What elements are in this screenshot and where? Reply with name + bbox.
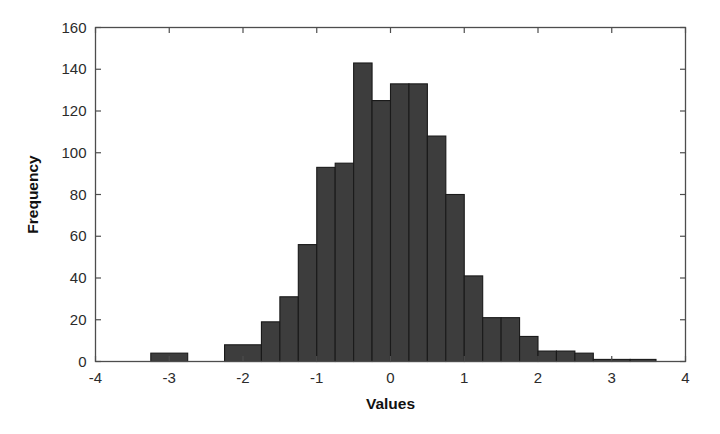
histogram-bar (520, 336, 538, 361)
x-tick-label: -4 (89, 369, 102, 386)
histogram-bar (280, 297, 298, 362)
x-tick-label: 2 (534, 369, 542, 386)
histogram-bar (335, 163, 353, 361)
x-axis-title: Values (366, 395, 415, 412)
y-tick-label: 120 (61, 102, 86, 119)
x-tick-label: -3 (163, 369, 176, 386)
histogram-bar (317, 167, 335, 361)
histogram-bar (372, 101, 390, 362)
x-tick-label: -1 (310, 369, 323, 386)
y-tick-label: 60 (70, 227, 87, 244)
y-tick-label: 100 (61, 144, 86, 161)
histogram-bar (261, 322, 279, 362)
histogram-bar (483, 318, 501, 362)
histogram-bar (538, 351, 556, 361)
histogram-bar (298, 245, 316, 362)
histogram-bar (354, 63, 372, 362)
y-axis-title: Frequency (24, 155, 41, 234)
x-tick-label: -2 (236, 369, 249, 386)
y-tick-label: 40 (70, 269, 87, 286)
histogram-bar (575, 353, 593, 361)
x-tick-label: 1 (460, 369, 468, 386)
y-tick-label: 160 (61, 19, 86, 36)
histogram-bar (427, 136, 445, 361)
histogram-bar (464, 276, 482, 362)
histogram-bar (556, 351, 574, 361)
y-tick-label: 20 (70, 311, 87, 328)
histogram-bar (391, 84, 409, 362)
x-tick-label: 0 (386, 369, 394, 386)
histogram-bar (446, 195, 464, 362)
histogram-bar (409, 84, 427, 362)
y-tick-label: 0 (78, 353, 86, 370)
histogram-bar (501, 318, 519, 362)
histogram-figure: -4-3-2-101234020406080100120140160Values… (0, 0, 720, 434)
x-tick-label: 3 (608, 369, 616, 386)
y-tick-label: 140 (61, 60, 86, 77)
y-tick-label: 80 (70, 186, 87, 203)
bar-group (151, 63, 656, 362)
x-tick-label: 4 (681, 369, 689, 386)
histogram-chart: -4-3-2-101234020406080100120140160Values… (0, 0, 720, 434)
